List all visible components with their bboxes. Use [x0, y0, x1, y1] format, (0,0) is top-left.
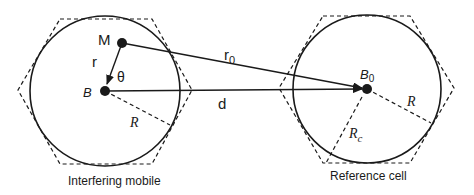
r-label: r: [92, 53, 97, 70]
theta-label: θ: [117, 69, 125, 85]
r0-label-subscript: 0: [229, 54, 235, 66]
interfering-bs-point: [100, 86, 110, 96]
d-line: [105, 89, 362, 91]
interfering-radius-label: R: [129, 115, 139, 130]
reference-cell-caption: Reference cell: [330, 169, 407, 183]
reference-cell-radius-line: [367, 89, 431, 123]
reference-rc-label: Rc: [348, 126, 363, 144]
interference-geometry-diagram: M r θ B R Interfering mobile r0 d B0 R R…: [0, 0, 474, 195]
reference-bs-label-main: B: [360, 67, 369, 82]
r0-line: [122, 43, 362, 88]
mobile-point: [117, 38, 127, 48]
reference-bs-point: [362, 84, 372, 94]
reference-radius-label: R: [406, 94, 416, 109]
reference-rc-label-subscript: c: [358, 132, 363, 144]
reference-bs-label: B0: [360, 67, 375, 84]
mobile-label: M: [98, 31, 111, 48]
reference-rc-label-main: R: [348, 126, 358, 141]
d-label: d: [218, 95, 226, 112]
reference-bs-label-subscript: 0: [369, 73, 375, 84]
interfering-bs-label: B: [83, 85, 92, 100]
interfering-mobile-caption: Interfering mobile: [68, 174, 161, 188]
